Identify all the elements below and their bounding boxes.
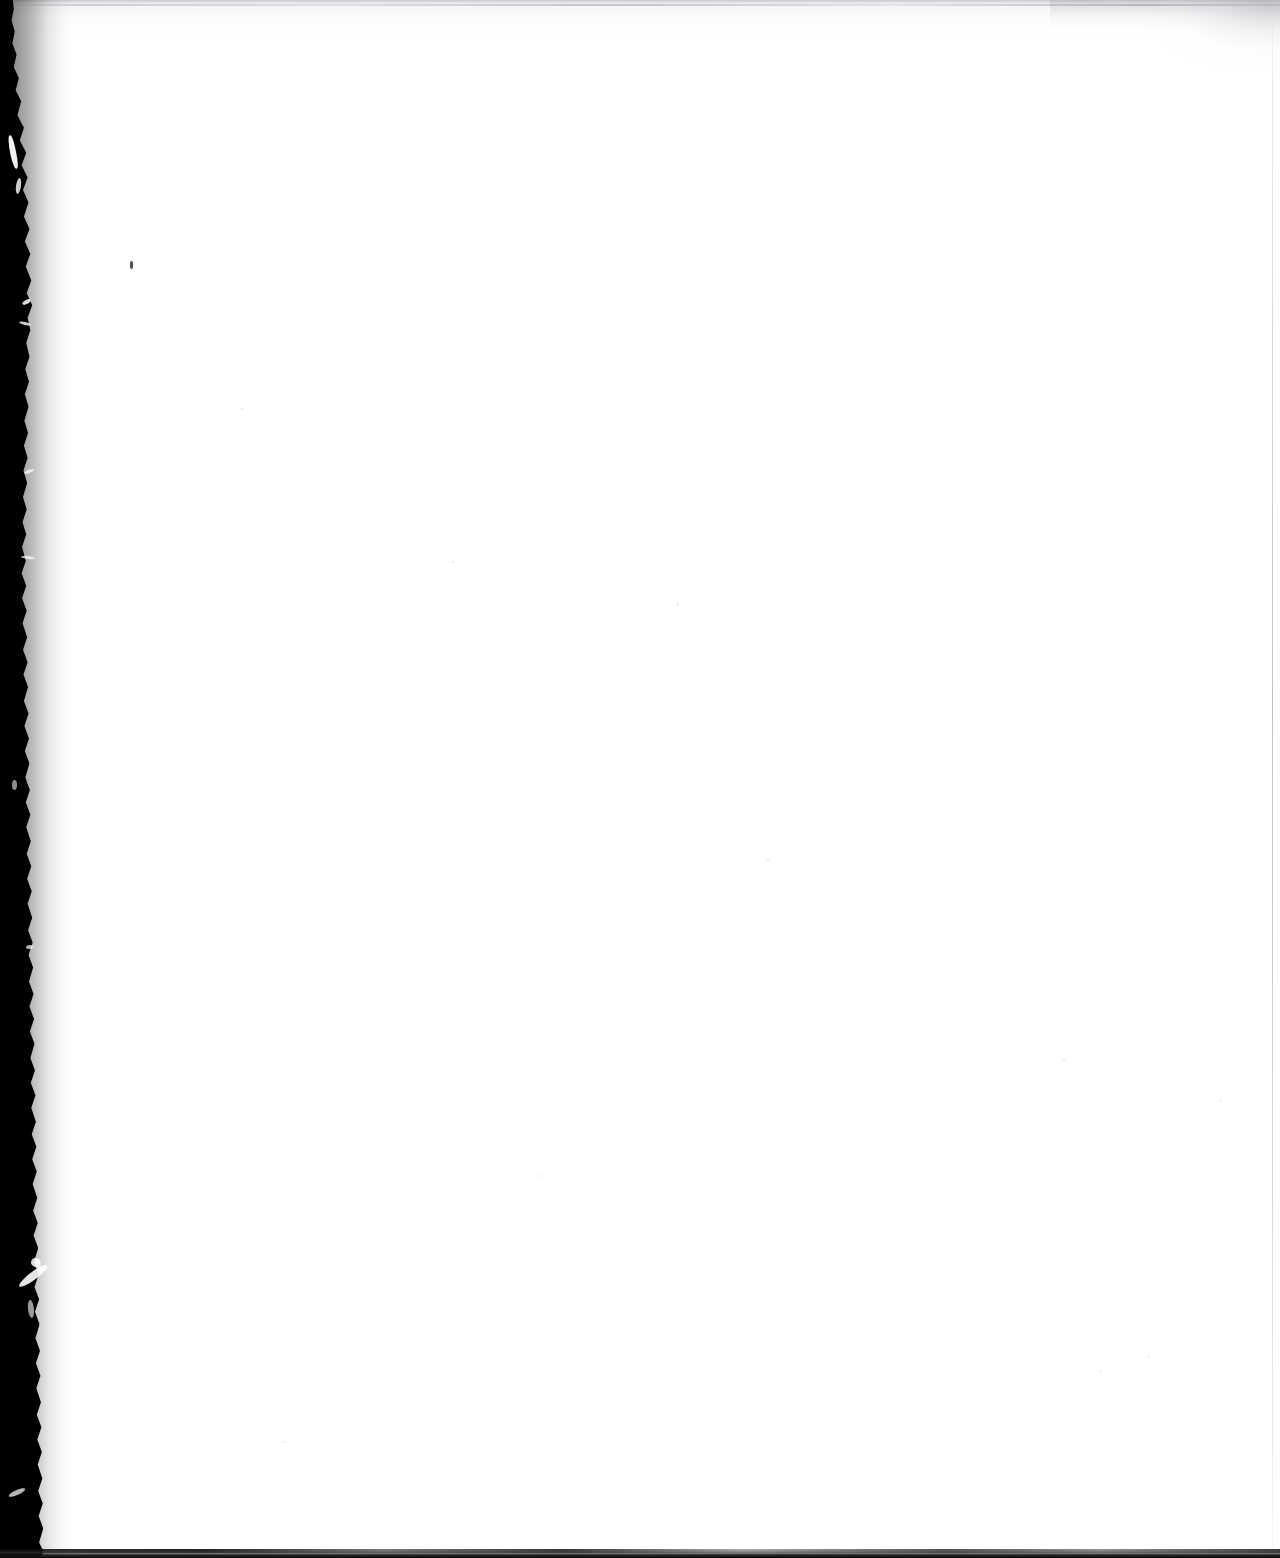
right-edge-rule <box>1272 0 1273 1558</box>
bottom-dark-band <box>0 1550 1280 1558</box>
top-scan-line-detail <box>0 4 1280 6</box>
page-body-text <box>80 80 1220 1460</box>
scanned-page <box>0 0 1280 1558</box>
